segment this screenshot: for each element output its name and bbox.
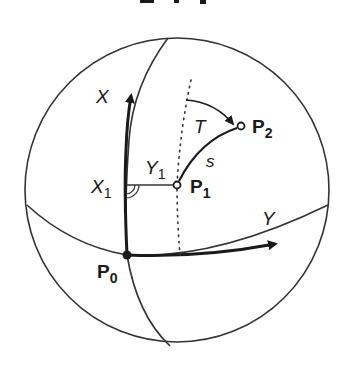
spherical-coordinate-diagram: X Y X1 Y1 P0 P1 P2 T s [0,0,345,367]
x-axis-arrow [125,96,131,255]
label-p2: P2 [252,116,273,141]
label-bearing-t: T [194,116,207,137]
point-p2 [238,123,245,130]
right-angle-mark-inner [126,185,135,194]
point-p0 [123,251,132,260]
label-distance-s: s [206,152,215,171]
label-p1: P1 [190,176,211,201]
label-x1: X1 [90,176,112,201]
label-p0: P0 [97,261,118,286]
label-y1: Y1 [145,157,166,182]
title-fragment [140,0,206,4]
label-x-axis: X [95,86,110,107]
label-y-axis: Y [262,208,276,229]
dotted-meridian [177,80,191,255]
point-p1 [174,182,181,189]
